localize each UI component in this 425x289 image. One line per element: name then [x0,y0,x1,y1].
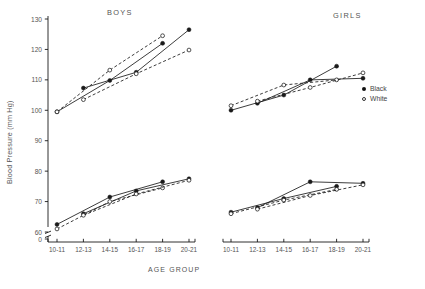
legend-label-white: White [370,94,387,104]
series-black-systolic-b [255,76,365,105]
x-tick-label: 16-17 [302,246,318,253]
series-white-diastolic-b [82,178,191,217]
filled-circle-icon [362,87,366,91]
legend-label-black: Black [370,84,387,94]
x-tick-label: 18-19 [328,246,344,253]
x-axis-boys [48,239,195,242]
data-point [187,48,191,52]
data-point [82,98,86,102]
data-point [81,86,85,90]
y-axis [45,16,51,242]
x-tick-label: 14-15 [276,246,292,253]
series-white-diastolic-a [55,186,164,231]
data-point [229,108,233,112]
x-tick-label: 12-13 [75,246,91,253]
data-point [308,86,312,90]
data-point [335,64,339,68]
series-black-systolic-a [55,41,165,113]
open-circle-icon [362,97,366,101]
x-tick-label: 10-11 [223,246,239,253]
data-point [55,227,59,231]
data-point [134,192,138,196]
series-white-systolic-a [55,34,164,114]
data-point [108,195,112,199]
series-black-diastolic-b [81,177,191,216]
data-point [308,78,312,82]
data-point [361,71,365,75]
x-tick-label: 20-21 [181,246,197,253]
series-black-systolic-b [81,28,191,90]
x-tick-label: 20-21 [355,246,371,253]
data-point [282,83,286,87]
data-point [308,194,312,198]
data-point [308,180,312,184]
data-point [161,34,165,38]
legend: Black White [362,84,387,104]
data-point [161,41,165,45]
data-point [108,200,112,204]
series-black-systolic-a [229,64,339,112]
x-tick-label: 10-11 [49,246,65,253]
data-point [55,110,59,114]
legend-item-white: White [362,94,387,104]
series-white-systolic-a [229,78,338,108]
series-white-diastolic-a [229,188,338,216]
data-point [282,198,286,202]
series-white-diastolic-b [256,183,365,211]
x-tick-label: 14-15 [102,246,118,253]
legend-item-black: Black [362,84,387,94]
data-point [256,99,260,103]
data-point [161,180,165,184]
chart-figure: Blood Pressure (mm Hg) 13012011010090807… [0,0,425,289]
data-point [55,222,59,226]
data-point [361,76,365,80]
data-point [229,212,233,216]
x-tick-label: 18-19 [154,246,170,253]
x-axis-girls [223,239,369,242]
data-point [134,72,138,76]
data-point [229,104,233,108]
data-point [108,68,112,72]
series-white-systolic-b [82,48,191,101]
data-point [187,178,191,182]
x-tick-label: 12-13 [249,246,265,253]
data-point [256,207,260,211]
x-axis-title: AGE GROUP [148,266,200,273]
x-tick-label: 16-17 [128,246,144,253]
data-point [187,28,191,32]
data-point [361,183,365,187]
data-point [82,213,86,217]
